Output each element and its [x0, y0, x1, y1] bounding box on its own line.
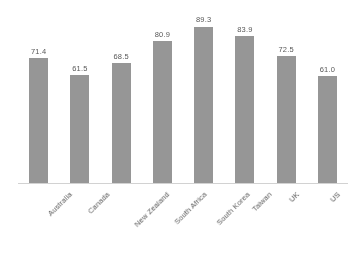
bar-rect[interactable] [153, 41, 172, 183]
cat-column: Taiwan [224, 186, 265, 256]
bar-column[interactable]: 80.9 [142, 8, 183, 183]
bar-rect[interactable] [235, 36, 254, 183]
bar-column[interactable]: 61.0 [307, 8, 348, 183]
cat-column: New Zealand [101, 186, 142, 256]
bar-value-label: 71.4 [31, 48, 46, 56]
bar-column[interactable]: 89.3 [183, 8, 224, 183]
cat-column: UK [266, 186, 307, 256]
bar-chart: 71.4 61.5 68.5 80.9 89.3 83.9 72.5 [0, 0, 359, 262]
bar-value-label: 72.5 [278, 46, 293, 54]
x-tick-label-uk: UK [287, 190, 301, 204]
bar-value-label: 89.3 [196, 16, 211, 24]
cat-column: South Korea [183, 186, 224, 256]
bar-series: 71.4 61.5 68.5 80.9 89.3 83.9 72.5 [18, 8, 348, 183]
bar-rect[interactable] [318, 76, 337, 183]
bar-value-label: 61.0 [320, 66, 335, 74]
cat-column: US [307, 186, 348, 256]
cat-column: Canada [59, 186, 100, 256]
bar-rect[interactable] [70, 75, 89, 183]
bar-column[interactable]: 72.5 [266, 8, 307, 183]
cat-column: Australia [18, 186, 59, 256]
bar-column[interactable]: 71.4 [18, 8, 59, 183]
bar-column[interactable]: 83.9 [224, 8, 265, 183]
x-axis-category-labels: Australia Canada New Zealand South Afric… [18, 186, 348, 256]
bar-column[interactable]: 68.5 [101, 8, 142, 183]
bar-rect[interactable] [112, 63, 131, 183]
cat-column: South Africa [142, 186, 183, 256]
bar-rect[interactable] [29, 58, 48, 183]
bar-rect[interactable] [194, 27, 213, 183]
bar-value-label: 83.9 [237, 26, 252, 34]
x-tick-label-us: US [329, 190, 343, 204]
bar-rect[interactable] [277, 56, 296, 183]
bar-value-label: 80.9 [155, 31, 170, 39]
bar-value-label: 68.5 [113, 53, 128, 61]
x-axis-line [18, 183, 348, 184]
bar-column[interactable]: 61.5 [59, 8, 100, 183]
bar-value-label: 61.5 [72, 65, 87, 73]
